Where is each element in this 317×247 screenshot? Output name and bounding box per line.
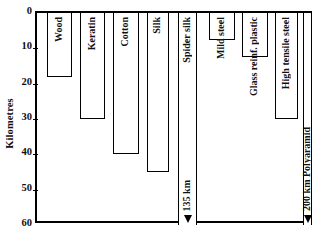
bar-label-high-tensile-steel: High tensile steel — [281, 17, 291, 89]
bar-mild-steel: Mild steel — [209, 13, 235, 40]
y-tick-mark — [33, 48, 38, 49]
y-tick-mark — [33, 119, 38, 120]
y-axis-tick-10: 10 — [10, 41, 32, 52]
y-axis-tick-40: 40 — [10, 147, 32, 158]
y-tick-mark — [33, 154, 38, 155]
y-axis-tick-0: 0 — [10, 6, 32, 17]
bar-annotation-spider-silk: 135 km — [182, 180, 192, 211]
bar-wood: Wood — [47, 13, 72, 77]
y-axis-tick-60: 60 — [10, 218, 32, 229]
bar-label-keratin: Keratin — [87, 17, 97, 50]
y-tick-mark — [33, 190, 38, 191]
bar-label-wood: Wood — [54, 17, 64, 42]
bar-high-tensile-steel: High tensile steel — [275, 13, 298, 119]
plot-inner: WoodKeratinCottonSilkSpider silk135 kmMi… — [37, 13, 310, 221]
y-axis-tick-20: 20 — [10, 77, 32, 88]
y-axis-tick-labels: 0102030405060 — [8, 0, 32, 247]
y-axis-tick-30: 30 — [10, 112, 32, 123]
bar-polyaramid: 200 km Polyaramid — [303, 13, 312, 225]
bar-label-spider-silk: Spider silk — [182, 17, 192, 63]
y-tick-mark — [33, 84, 38, 85]
bar-glass-reinf-plastic: Glass reinf. plastic — [242, 13, 268, 57]
plot-area: WoodKeratinCottonSilkSpider silk135 kmMi… — [35, 11, 312, 223]
bar-label-silk: Silk — [152, 17, 162, 34]
down-arrow-icon — [184, 215, 192, 223]
tensile-breaking-length-bar-chart: Kilometres 0102030405060 WoodKeratinCott… — [0, 0, 317, 247]
bar-label-mild-steel: Mild steel — [216, 17, 226, 59]
bar-cotton: Cotton — [113, 13, 139, 154]
y-axis-tick-50: 50 — [10, 183, 32, 194]
bar-annotation-polyaramid: 200 km Polyaramid — [302, 127, 312, 211]
bar-keratin: Keratin — [80, 13, 105, 119]
down-arrow-icon — [304, 215, 312, 223]
bar-label-cotton: Cotton — [120, 17, 130, 46]
bar-spider-silk: Spider silk135 km — [178, 13, 197, 225]
bar-label-glass-reinf-plastic: Glass reinf. plastic — [249, 17, 259, 96]
bar-silk: Silk — [147, 13, 169, 172]
